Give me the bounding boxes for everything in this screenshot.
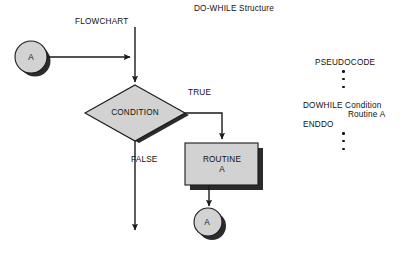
branch-label-true: TRUE [188, 88, 211, 97]
pseudocode-line-routine: Routine A [348, 110, 385, 119]
pseudocode-line-enddo: ENDDO [303, 120, 334, 129]
arrow-true-branch [185, 113, 222, 139]
dot [342, 78, 345, 81]
pseudocode-dots-above [342, 70, 345, 93]
pseudocode-dots-below [342, 132, 345, 155]
decision-label: CONDITION [85, 108, 185, 117]
dot [342, 86, 345, 89]
pseudocode-section-heading: PSEUDOCODE [315, 58, 375, 67]
connector-top-label: A [14, 53, 48, 62]
connector-bottom-label: A [194, 218, 220, 227]
branch-label-false: FALSE [131, 155, 158, 164]
flowchart-diagram-page: DO-WHILE Structure FLOWCHART PSEUDOCODE … [0, 0, 405, 259]
dot [342, 132, 345, 135]
dot [342, 70, 345, 73]
dot [342, 148, 345, 151]
flowchart-section-heading: FLOWCHART [75, 17, 129, 26]
pseudocode-line-dowhile: DOWHILE Condition [303, 101, 381, 110]
process-label: ROUTINE A [186, 155, 258, 175]
page-title: DO-WHILE Structure [194, 4, 274, 13]
dot [342, 140, 345, 143]
